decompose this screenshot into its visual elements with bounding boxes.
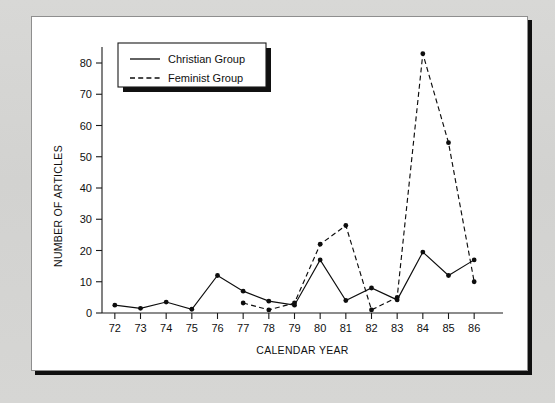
y-tick-label: 0 — [86, 307, 92, 319]
data-point-marker — [446, 273, 451, 278]
data-point-marker — [266, 307, 271, 312]
y-tick-label: 10 — [80, 276, 92, 288]
data-point-marker — [472, 279, 477, 284]
data-point-marker — [446, 140, 451, 145]
data-point-marker — [395, 295, 400, 300]
x-tick-label: 76 — [211, 322, 223, 334]
data-point-marker — [138, 306, 143, 311]
x-tick-label: 77 — [237, 322, 249, 334]
data-point-marker — [241, 301, 246, 306]
data-point-marker — [472, 257, 477, 262]
data-point-marker — [164, 300, 169, 305]
x-tick-label: 82 — [365, 322, 377, 334]
x-tick-label: 84 — [417, 322, 429, 334]
x-tick-label: 79 — [288, 322, 300, 334]
data-point-marker — [318, 257, 323, 262]
x-tick-label: 81 — [340, 322, 352, 334]
y-tick-label: 70 — [80, 88, 92, 100]
data-point-marker — [112, 303, 117, 308]
figure-root: 0102030405060708072737475767778798081828… — [0, 0, 555, 403]
y-tick-label: 30 — [80, 213, 92, 225]
x-tick-label: 83 — [391, 322, 403, 334]
y-tick-label: 80 — [80, 57, 92, 69]
data-point-marker — [266, 299, 271, 304]
chart-panel: 0102030405060708072737475767778798081828… — [31, 16, 528, 371]
x-axis-title: CALENDAR YEAR — [256, 344, 349, 356]
legend-label: Feminist Group — [168, 72, 243, 84]
data-point-marker — [241, 289, 246, 294]
x-tick-label: 74 — [160, 322, 172, 334]
x-tick-label: 80 — [314, 322, 326, 334]
x-tick-label: 73 — [134, 322, 146, 334]
series-path-feminist-group — [243, 54, 474, 310]
data-point-marker — [369, 307, 374, 312]
chart-legend[interactable]: Christian GroupFeminist Group — [118, 43, 271, 92]
y-tick-label: 50 — [80, 151, 92, 163]
legend-label: Christian Group — [168, 53, 245, 65]
y-axis-title: NUMBER OF ARTICLES — [52, 145, 64, 267]
data-point-marker — [420, 51, 425, 56]
data-point-marker — [420, 250, 425, 255]
x-tick-label: 75 — [186, 322, 198, 334]
x-tick-label: 85 — [442, 322, 454, 334]
y-tick-label: 20 — [80, 245, 92, 257]
x-tick-label: 78 — [263, 322, 275, 334]
data-point-marker — [292, 301, 297, 306]
data-point-marker — [343, 223, 348, 228]
y-tick-label: 40 — [80, 182, 92, 194]
data-point-marker — [318, 242, 323, 247]
data-point-marker — [343, 298, 348, 303]
x-tick-label: 72 — [109, 322, 121, 334]
line-chart: 0102030405060708072737475767778798081828… — [32, 17, 529, 372]
data-point-marker — [369, 286, 374, 291]
x-tick-label: 86 — [468, 322, 480, 334]
y-tick-label: 60 — [80, 120, 92, 132]
data-point-marker — [189, 307, 194, 312]
data-point-marker — [215, 273, 220, 278]
